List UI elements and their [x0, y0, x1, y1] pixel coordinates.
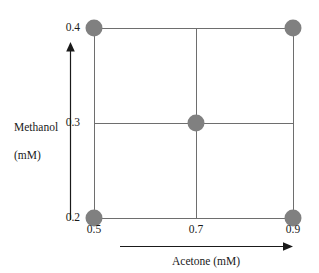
x-tick-label-0-5: 0.5: [87, 224, 101, 236]
x-tick-label-0-9: 0.9: [286, 224, 300, 236]
y-axis-title: Methanol (mM): [14, 106, 58, 176]
x-axis-arrow-icon: [120, 240, 293, 253]
gridline-horizontal-y-0-2: [94, 218, 293, 219]
data-point-high-acetone-high-methanol[interactable]: [285, 20, 302, 37]
data-point-center[interactable]: [188, 115, 205, 132]
data-point-low-acetone-high-methanol[interactable]: [86, 20, 103, 37]
x-axis-title: Acetone (mM): [172, 254, 240, 268]
y-axis-title-line-1: Methanol: [14, 120, 58, 134]
factorial-design-plot: 0.4 0.3 0.2 0.5 0.7 0.9 Methanol (mM) Ac…: [0, 0, 319, 273]
y-axis-title-line-2: (mM): [14, 148, 58, 162]
gridline-horizontal-y-0-4: [94, 28, 293, 29]
gridline-vertical-x-0-5: [94, 28, 95, 218]
x-tick-label-0-7: 0.7: [189, 224, 203, 236]
gridline-vertical-x-0-9: [293, 28, 294, 218]
y-axis-arrow-icon: [64, 42, 77, 220]
y-tick-label-0-4: 0.4: [66, 22, 80, 34]
